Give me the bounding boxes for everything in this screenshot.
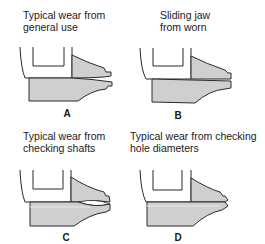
- caliper-jaw-d-drawing: [132, 122, 265, 244]
- panel-a: Typical wear from general use A: [0, 0, 132, 122]
- caliper-jaw-a-drawing: [0, 0, 132, 122]
- label-b: B: [168, 110, 188, 121]
- panel-d: Typical wear from checking hole diameter…: [132, 122, 264, 244]
- label-c: C: [56, 232, 76, 243]
- caliper-jaw-c-drawing: [0, 122, 132, 244]
- caliper-jaw-b-drawing: [132, 0, 265, 122]
- label-d: D: [168, 232, 188, 243]
- panel-b: Sliding jaw from worn B: [132, 0, 264, 122]
- panel-c: Typical wear from checking shafts C: [0, 122, 132, 244]
- label-a: A: [57, 108, 77, 119]
